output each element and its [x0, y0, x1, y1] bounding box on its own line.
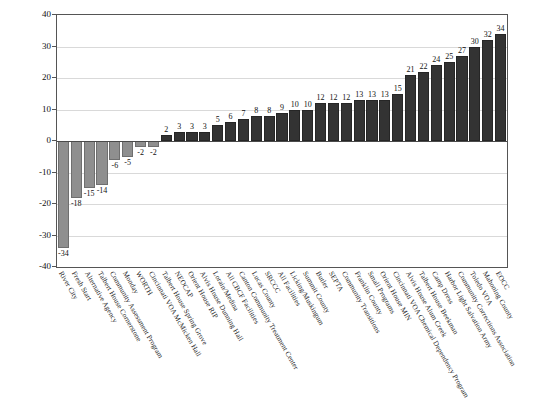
y-tick-mark — [52, 46, 56, 47]
y-tick-mark — [52, 172, 56, 173]
bar-value-label: -34 — [52, 249, 75, 258]
bar — [289, 110, 300, 142]
bar — [456, 56, 467, 141]
y-tick-mark — [52, 203, 56, 204]
y-tick-label: 0 — [10, 135, 56, 145]
y-tick-mark — [52, 14, 56, 15]
bar — [58, 141, 69, 248]
y-tick-label: 20 — [10, 72, 56, 82]
y-tick-label: -10 — [10, 167, 56, 177]
y-tick-mark — [52, 266, 56, 267]
bar — [495, 34, 506, 141]
bar — [354, 100, 365, 141]
bar — [482, 40, 493, 141]
y-tick-label: 10 — [10, 104, 56, 114]
bar — [264, 116, 275, 141]
bar-value-label: 27 — [451, 46, 474, 55]
y-tick-mark — [52, 235, 56, 236]
y-tick-label: 30 — [10, 41, 56, 51]
bar — [469, 47, 480, 142]
bar-chart-figure: Probability of Reincarceration -34-18-15… — [0, 0, 537, 402]
bar — [431, 65, 442, 141]
y-tick-label: 40 — [10, 9, 56, 19]
bar — [186, 132, 197, 141]
bar — [276, 113, 287, 141]
plot-area: -34-18-15-14-6-5-2-223335678891010121212… — [56, 14, 508, 268]
bar-value-label: -5 — [116, 158, 139, 167]
bar — [302, 110, 313, 142]
bar — [392, 94, 403, 141]
bar — [418, 72, 429, 141]
bar — [199, 132, 210, 141]
bar-value-label: -18 — [65, 199, 88, 208]
y-tick-mark — [52, 77, 56, 78]
bar-value-label: 34 — [489, 24, 512, 33]
bar — [84, 141, 95, 188]
bar — [366, 100, 377, 141]
bar — [379, 100, 390, 141]
bar — [341, 103, 352, 141]
bar — [315, 103, 326, 141]
bar — [328, 103, 339, 141]
bar — [251, 116, 262, 141]
bar — [238, 119, 249, 141]
bar-value-label: 15 — [386, 84, 409, 93]
bar — [444, 62, 455, 141]
bar-value-label: -2 — [142, 148, 165, 157]
bar-value-label: -14 — [91, 186, 114, 195]
y-tick-label: -40 — [10, 261, 56, 271]
y-tick-label: -30 — [10, 230, 56, 240]
zero-line — [57, 141, 507, 142]
y-tick-label: -20 — [10, 198, 56, 208]
x-axis-labels: River CityFresh StartAlternative AgencyT… — [56, 270, 508, 400]
y-tick-mark — [52, 109, 56, 110]
bar — [225, 122, 236, 141]
y-tick-mark — [52, 140, 56, 141]
